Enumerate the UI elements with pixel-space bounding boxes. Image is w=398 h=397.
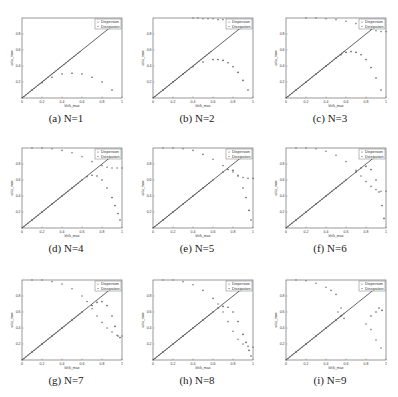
- y-tick-label: 0.6: [16, 178, 21, 182]
- dissipation-point: [370, 329, 372, 331]
- x-tick-label: 0.8: [364, 362, 369, 366]
- dispersion-point: [360, 167, 362, 169]
- dispersion-point: [315, 203, 317, 205]
- y-tick-label: 0.4: [147, 64, 152, 68]
- x-tick-label: 0.6: [80, 230, 85, 234]
- dispersion-point: [335, 319, 337, 321]
- x-axis-label: kh/k_max: [329, 366, 344, 370]
- chart-panel-7: 00.20.40.60.810.20.40.60.8kh/k_maxω/ω_ma…: [0, 262, 132, 392]
- dispersion-point: [232, 66, 234, 68]
- dispersion-point: [237, 321, 239, 323]
- legend-entry: Dispersion: [232, 282, 250, 286]
- y-tick-label: 0.6: [280, 310, 285, 314]
- dissipation-point: [360, 175, 362, 177]
- y-tick-label: 0.4: [147, 194, 152, 198]
- y-axis-label: ω/ω_max: [10, 312, 14, 327]
- dispersion-point: [172, 211, 174, 213]
- y-axis-label: ω/ω_max: [274, 312, 278, 327]
- dissipation-point: [380, 190, 382, 192]
- x-axis-label: kh/k_max: [196, 234, 211, 238]
- plot-area: 00.20.40.60.810.20.40.60.8kh/k_maxω/ω_ma…: [0, 0, 132, 110]
- y-axis-label: ω/ω_max: [274, 180, 278, 195]
- dissipation-point: [380, 347, 382, 349]
- dispersion-point: [325, 327, 327, 329]
- x-tick-label: 0.6: [344, 362, 349, 366]
- dissipation-point: [212, 158, 214, 160]
- x-tick-label: 0: [285, 230, 287, 234]
- dispersion-point: [96, 175, 98, 177]
- panel-caption: (f) N=6: [264, 242, 396, 254]
- panel-caption: (a) N=1: [0, 112, 132, 124]
- legend: DispersionDissipation: [359, 19, 385, 29]
- dispersion-point: [31, 351, 33, 353]
- legend: DispersionDissipation: [226, 149, 252, 159]
- legend-entry: Dissipation: [101, 287, 120, 291]
- y-tick-label: 0.4: [280, 194, 285, 198]
- dissipation-point: [197, 17, 199, 19]
- dispersion-point: [383, 218, 385, 220]
- dispersion-point: [162, 89, 164, 91]
- dispersion-point: [375, 311, 377, 313]
- legend-entry: Dissipation: [232, 287, 251, 291]
- y-tick-label: 0.2: [147, 80, 152, 84]
- panel-caption: (d) N=4: [0, 242, 132, 254]
- dissipation-point: [101, 165, 103, 167]
- dispersion-point: [340, 54, 342, 56]
- dispersion-point: [375, 179, 377, 181]
- plot-area: 00.20.40.60.810.20.40.60.8kh/k_maxω/ω_ma…: [0, 130, 132, 240]
- dispersion-point: [295, 219, 297, 221]
- panel-caption: (c) N=3: [264, 112, 396, 124]
- dispersion-point: [365, 166, 367, 168]
- dispersion-point: [315, 73, 317, 75]
- plot-area: 00.20.40.60.810.20.40.60.8kh/k_maxω/ω_ma…: [0, 262, 132, 372]
- x-tick-label: 0.2: [304, 362, 309, 366]
- dissipation-point: [172, 279, 174, 281]
- dissipation-point: [247, 178, 249, 180]
- x-tick-label: 0.6: [344, 100, 349, 104]
- dispersion-point: [101, 179, 103, 181]
- legend: DispersionDissipation: [226, 19, 252, 29]
- dissipation-point: [355, 23, 357, 25]
- dispersion-point: [250, 219, 252, 221]
- dispersion-point: [245, 197, 247, 199]
- dispersion-point: [350, 51, 352, 53]
- dissipation-point: [121, 167, 123, 169]
- dispersion-point: [202, 61, 204, 63]
- x-tick-label: 1: [252, 100, 254, 104]
- dispersion-point: [250, 355, 252, 357]
- x-tick-label: 0: [285, 100, 287, 104]
- dispersion-point: [41, 82, 43, 84]
- dissipation-point: [305, 280, 307, 282]
- dissipation-point: [305, 147, 307, 149]
- dispersion-point: [86, 176, 88, 178]
- x-tick-label: 0: [21, 100, 23, 104]
- x-tick-label: 0.2: [40, 230, 45, 234]
- dispersion-point: [232, 311, 234, 313]
- dissipation-point: [335, 19, 337, 21]
- dispersion-point: [242, 334, 244, 336]
- dispersion-point: [119, 219, 121, 221]
- dissipation-point: [375, 189, 377, 191]
- dispersion-point: [381, 205, 383, 207]
- dispersion-point: [370, 315, 372, 317]
- x-tick-label: 0.2: [304, 100, 309, 104]
- dissipation-point: [305, 17, 307, 19]
- chart-panel-2: 00.20.40.60.810.20.40.60.8kh/k_maxω/ω_ma…: [131, 0, 263, 130]
- dissipation-point: [345, 161, 347, 163]
- dissipation-point: [375, 30, 377, 32]
- dissipation-point: [91, 161, 93, 163]
- dispersion-point: [111, 89, 113, 91]
- dissipation-point: [202, 290, 204, 292]
- legend-entry: Dissipation: [232, 25, 251, 29]
- y-tick-label: 0.2: [280, 80, 285, 84]
- dispersion-point: [212, 59, 214, 61]
- dispersion-point: [182, 203, 184, 205]
- legend-entry: Dispersion: [365, 150, 383, 154]
- dissipation-point: [295, 279, 297, 281]
- dissipation-point: [106, 327, 108, 329]
- dissipation-point: [192, 284, 194, 286]
- plot-area: 00.20.40.60.810.20.40.60.8kh/k_maxω/ω_ma…: [264, 0, 396, 110]
- dissipation-point: [212, 298, 214, 300]
- y-tick-label: 0.2: [280, 210, 285, 214]
- plot-area: 00.20.40.60.810.20.40.60.8kh/k_maxω/ω_ma…: [264, 262, 396, 372]
